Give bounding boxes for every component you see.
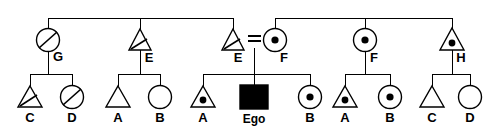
sibship-G-children [30, 52, 72, 86]
person-g1-e2[interactable]: E [222, 29, 244, 65]
person-label: E [145, 50, 154, 65]
triangle-symbol [106, 86, 130, 107]
sibship-F2-children [345, 52, 390, 86]
pedigree-canvas: G E E F [0, 0, 498, 126]
person-label: A [113, 110, 123, 125]
sibship-left [48, 18, 233, 29]
proband-label: Ego [243, 112, 266, 126]
sibship-right [275, 18, 452, 29]
person-g2-d2[interactable]: D [459, 86, 482, 126]
person-label: F [280, 50, 288, 65]
carrier-dot-icon [306, 93, 313, 100]
person-g2-b1[interactable]: B [149, 86, 172, 126]
triangle-symbol [333, 86, 357, 107]
person-label: H [456, 50, 465, 65]
person-g2-d1[interactable]: D [61, 86, 84, 126]
sibship-E1-children [118, 50, 160, 86]
carrier-dot-icon [361, 36, 368, 43]
person-g1-e1[interactable]: E [129, 29, 154, 65]
person-g1-g[interactable]: G [37, 29, 64, 65]
carrier-dot-icon [271, 36, 278, 43]
person-g2-a1[interactable]: A [106, 86, 130, 125]
circle-symbol [149, 86, 172, 109]
sibship-EF-children [203, 74, 310, 86]
person-label: B [385, 110, 394, 125]
person-g1-h[interactable]: H [440, 28, 466, 65]
triangle-symbol [191, 86, 215, 107]
triangle-symbol [440, 28, 464, 50]
pedigree-diagram: G E E F [0, 0, 498, 126]
person-label: G [53, 49, 63, 64]
triangle-symbol [129, 29, 151, 50]
person-label: F [370, 50, 378, 65]
triangle-symbol [420, 86, 444, 107]
person-label: C [427, 110, 437, 125]
person-label: D [67, 110, 76, 125]
circle-symbol [459, 86, 482, 109]
person-g1-f2[interactable]: F [354, 29, 379, 66]
person-label: C [25, 110, 35, 125]
square-symbol-affected [240, 85, 268, 109]
person-g2-b3[interactable]: B [379, 86, 402, 126]
mating-E-F [248, 36, 261, 74]
person-g2-ego[interactable]: Ego [240, 85, 268, 126]
carrier-dot-icon [386, 93, 393, 100]
carrier-dot-icon [200, 97, 207, 104]
person-label: E [234, 50, 243, 65]
person-g1-f1[interactable]: F [264, 29, 289, 66]
person-label: B [305, 110, 314, 125]
person-g2-c1[interactable]: C [18, 86, 42, 125]
carrier-dot-icon [342, 97, 349, 104]
person-label: A [340, 110, 350, 125]
person-g2-b2[interactable]: B [299, 86, 322, 126]
person-label: B [155, 110, 164, 125]
triangle-symbol [18, 86, 42, 107]
person-label: A [198, 110, 208, 125]
carrier-dot-icon [449, 40, 456, 47]
person-label: D [465, 110, 474, 125]
person-g2-a3[interactable]: A [333, 86, 357, 125]
person-g2-c2[interactable]: C [420, 86, 444, 125]
triangle-symbol [222, 29, 244, 50]
person-g2-a2[interactable]: A [191, 86, 215, 125]
